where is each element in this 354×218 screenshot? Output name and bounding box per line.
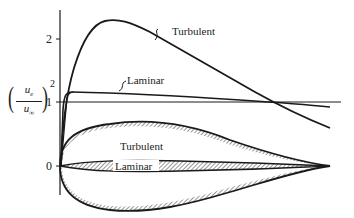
- denominator: u∞: [16, 102, 42, 120]
- denominator-subscript: ∞: [29, 109, 34, 117]
- exponent: 2: [50, 78, 55, 89]
- numerator: ue: [16, 83, 42, 102]
- left-paren: (: [8, 80, 14, 114]
- tick-label-2: 2: [46, 32, 52, 46]
- tick-label-0: 0: [46, 159, 52, 173]
- laminar-leader: [119, 81, 126, 91]
- y-axis-label: ( ue u∞ ) 2: [6, 80, 56, 120]
- turbulent-body-label: Turbulent: [120, 140, 163, 152]
- right-paren: ): [42, 80, 48, 114]
- laminar-curve-label: Laminar: [127, 74, 165, 86]
- numerator-subscript: e: [30, 90, 33, 98]
- laminar-body-label: Laminar: [115, 160, 153, 172]
- velocity-ratio-fraction: ue u∞: [16, 83, 42, 120]
- turbulent-curve-label: Turbulent: [172, 25, 215, 37]
